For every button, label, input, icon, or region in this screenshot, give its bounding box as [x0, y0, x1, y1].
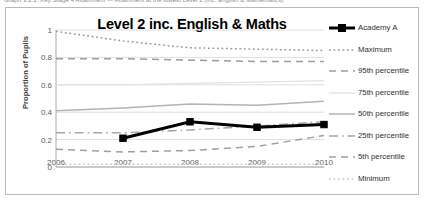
- series-line: [56, 31, 324, 50]
- legend-item[interactable]: Maximum: [328, 40, 424, 60]
- series-marker: [120, 135, 126, 141]
- series-line: [123, 122, 324, 138]
- series-marker: [254, 124, 260, 130]
- series-line: [56, 59, 324, 62]
- chart-frame: Level 2 inc. English & Maths Proportion …: [5, 7, 419, 195]
- legend-label: Academy A: [358, 18, 397, 38]
- plot-area: [56, 30, 324, 167]
- series-marker: [321, 121, 327, 127]
- series-line: [56, 135, 324, 151]
- legend-label: Maximum: [358, 40, 392, 60]
- y-tick-label: 0.8: [30, 53, 52, 62]
- legend-swatch: [328, 169, 356, 189]
- legend-item[interactable]: 50th percentile: [328, 104, 424, 124]
- y-tick-label: 0.2: [30, 135, 52, 144]
- legend-item[interactable]: 95th percentile: [328, 61, 424, 81]
- plot-svg: [56, 30, 324, 167]
- series-marker: [187, 119, 193, 125]
- y-tick-label: 1: [30, 26, 52, 35]
- legend-swatch: [328, 126, 356, 146]
- legend-swatch: [328, 18, 356, 38]
- legend-label: 95th percentile: [358, 61, 409, 81]
- legend-label: 50th percentile: [358, 104, 409, 124]
- series-line: [56, 101, 324, 111]
- legend-label: Minimum: [358, 169, 390, 189]
- legend-item[interactable]: 5th percentile: [328, 147, 424, 167]
- legend-swatch: [328, 83, 356, 103]
- legend-item[interactable]: Minimum: [328, 169, 424, 189]
- y-tick-label: 0.4: [30, 108, 52, 117]
- legend-swatch: [328, 104, 356, 124]
- legend-swatch: [328, 147, 356, 167]
- legend-item[interactable]: 75th percentile: [328, 83, 424, 103]
- legend-label: 25th percentile: [358, 126, 409, 146]
- figure-caption: Graph 3.2.1: Key Stage 4 Attainment — At…: [4, 0, 420, 6]
- chart-legend: Academy AMaximum95th percentile75th perc…: [328, 18, 424, 194]
- series-line: [56, 81, 324, 85]
- legend-label: 75th percentile: [358, 83, 409, 103]
- legend-item[interactable]: 25th percentile: [328, 126, 424, 146]
- legend-swatch: [328, 61, 356, 81]
- y-tick-label: 0.6: [30, 80, 52, 89]
- figure: Graph 3.2.1: Key Stage 4 Attainment — At…: [0, 0, 424, 201]
- legend-swatch: [328, 40, 356, 60]
- legend-label: 5th percentile: [358, 147, 405, 167]
- legend-item[interactable]: Academy A: [328, 18, 424, 38]
